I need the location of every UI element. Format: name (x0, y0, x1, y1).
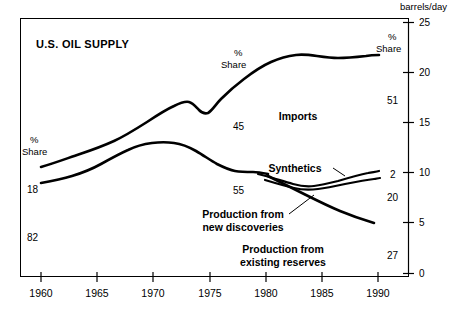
y-tick-label-0: 0 (419, 268, 425, 279)
right-share-value-20: 20 (387, 192, 399, 203)
mid-share-value-55: 55 (233, 185, 245, 196)
left-share-caption: Share (22, 146, 47, 157)
left-share-value-18: 18 (27, 184, 39, 195)
y-tick-label-10: 10 (419, 167, 431, 178)
band-label-new-discoveries-line1: Production from (202, 208, 284, 220)
x-tick-label-1965: 1965 (85, 287, 109, 299)
curve-new-discoveries (268, 176, 374, 223)
band-label-new-discoveries-line2: new discoveries (202, 221, 283, 233)
y-tick-label-25: 25 (419, 17, 431, 28)
right-share-value-27: 27 (387, 250, 399, 261)
band-label-existing-reserves-line2: existing reserves (240, 256, 326, 268)
band-label-synthetics: Synthetics (268, 162, 321, 174)
mid-share-percent-caption: % (234, 47, 243, 58)
x-tick-label-1985: 1985 (310, 287, 334, 299)
y-axis-unit-label: barrels/day (400, 1, 447, 12)
chart-title: U.S. OIL SUPPLY (36, 38, 130, 50)
left-share-value-82: 82 (27, 232, 39, 243)
y-tick-label-5: 5 (419, 217, 425, 228)
y-tick-label-15: 15 (419, 117, 431, 128)
mid-share-value-45: 45 (233, 121, 245, 132)
x-tick-label-1990: 1990 (366, 287, 390, 299)
new-discoveries-leader-line (289, 195, 314, 214)
band-label-imports: Imports (279, 110, 318, 122)
x-tick-label-1980: 1980 (254, 287, 278, 299)
y-tick-label-20: 20 (419, 67, 431, 78)
mid-share-caption: Share (221, 59, 246, 70)
chart-figure: 25 20 15 10 5 0 barrels/day 1960 1965 19… (0, 0, 473, 315)
band-label-existing-reserves-line1: Production from (242, 243, 324, 255)
curve-domestic-production (41, 142, 268, 183)
right-share-value-51: 51 (387, 95, 399, 106)
synthetics-leader-line (333, 168, 345, 176)
right-share-value-2: 2 (390, 169, 396, 180)
left-share-percent-caption: % (30, 134, 39, 145)
x-tick-label-1970: 1970 (141, 287, 165, 299)
curve-total-supply (41, 55, 379, 167)
oil-supply-chart: 25 20 15 10 5 0 barrels/day 1960 1965 19… (0, 0, 473, 315)
right-share-caption: Share (376, 43, 401, 54)
x-tick-label-1975: 1975 (198, 287, 222, 299)
right-share-percent-caption: % (388, 31, 397, 42)
x-tick-label-1960: 1960 (29, 287, 53, 299)
